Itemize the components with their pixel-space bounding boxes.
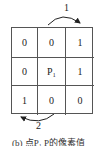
cell-0-0: 0 (12, 28, 38, 58)
cell-2-1: 0 (38, 86, 66, 115)
cell-1-0: 0 (12, 58, 38, 86)
arrow-top-icon (48, 17, 80, 25)
cell-0-2: 1 (66, 28, 94, 58)
caption: (b) 点P₁ P的像素值 (0, 136, 97, 146)
cell-0-1: 0 (38, 28, 66, 58)
cell-2-2: 0 (66, 86, 94, 115)
arrow-bottom-label: 2 (36, 120, 41, 131)
arrow-top-label: 1 (64, 2, 69, 13)
cell-2-0: 1 (12, 86, 38, 115)
cell-1-2: 1 (66, 58, 94, 86)
cell-1-1: P₁ (38, 58, 66, 86)
pixel-grid: 0 0 1 0 P₁ 1 1 0 0 (11, 27, 93, 114)
